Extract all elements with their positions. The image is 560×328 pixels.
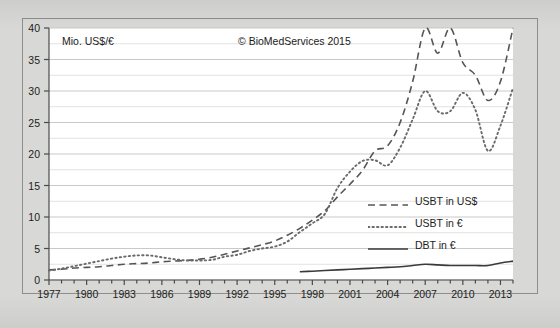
x-axis-tick-label: 2010 [443,289,483,299]
legend-line-swatch [368,240,408,250]
x-axis-tick-label: 2013 [480,289,520,299]
y-axis-tick-label: 35 [18,55,40,65]
x-axis-tick-label: 1983 [104,289,144,299]
y-axis-tick-label: 20 [18,149,40,159]
legend-item-label: DBT in € [415,239,456,251]
x-axis-tick-label: 1992 [217,289,257,299]
y-axis-tick-label: 40 [18,23,40,33]
y-axis-tick-label: 15 [18,181,40,191]
legend-item[interactable]: USBT in US$ [368,190,477,212]
copyright-annotation: © BioMedServices 2015 [238,35,351,47]
series-line [300,261,513,272]
y-axis-unit-label: Mio. US$/€ [62,35,114,47]
x-axis-tick-label: 1980 [67,289,107,299]
x-axis-tick-label: 1986 [142,289,182,299]
x-axis-tick-label: 1995 [255,289,295,299]
chart-legend: USBT in US$USBT in €DBT in € [368,190,477,256]
x-axis-tick-label: 2007 [405,289,445,299]
legend-line-swatch [368,218,408,228]
legend-line-swatch [368,196,408,206]
x-axis [49,280,513,285]
legend-item[interactable]: DBT in € [368,234,477,256]
x-axis-tick-label: 2004 [368,289,408,299]
legend-item-label: USBT in US$ [415,195,477,207]
x-axis-tick-label: 2001 [330,289,370,299]
x-axis-tick-label: 1977 [29,289,69,299]
legend-item[interactable]: USBT in € [368,212,477,234]
chart-canvas [0,0,560,328]
y-axis-tick-label: 25 [18,118,40,128]
y-axis-tick-label: 5 [18,244,40,254]
y-axis-tick-label: 10 [18,212,40,222]
legend-item-label: USBT in € [415,217,463,229]
y-axis-tick-label: 0 [18,275,40,285]
y-axis-tick-label: 30 [18,86,40,96]
x-axis-tick-label: 1989 [179,289,219,299]
chart-figure: 0510152025303540 19771980198319861989199… [0,0,560,328]
x-axis-tick-label: 1998 [292,289,332,299]
y-axis [44,28,49,280]
